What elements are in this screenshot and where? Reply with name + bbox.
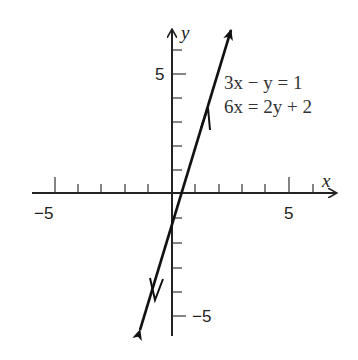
y-axis-label: y [179, 22, 190, 43]
x-tick-label-5: 5 [284, 204, 293, 223]
line-mid-arrow-down [150, 278, 163, 300]
y-tick-label-5: 5 [155, 65, 164, 84]
chart-canvas: −5 5 5 −5 x y 3x − y = 1 6x = 2y + 2 [0, 0, 358, 360]
equation-1: 3x − y = 1 [224, 72, 302, 93]
x-axis-label: x [321, 170, 331, 191]
y-tick-label-neg5: −5 [192, 307, 211, 326]
equation-2: 6x = 2y + 2 [224, 96, 312, 117]
line-y-eq-3x-minus-1 [140, 30, 231, 330]
chart-figure: −5 5 5 −5 x y 3x − y = 1 6x = 2y + 2 [0, 0, 358, 360]
x-tick-label-neg5: −5 [34, 204, 53, 223]
